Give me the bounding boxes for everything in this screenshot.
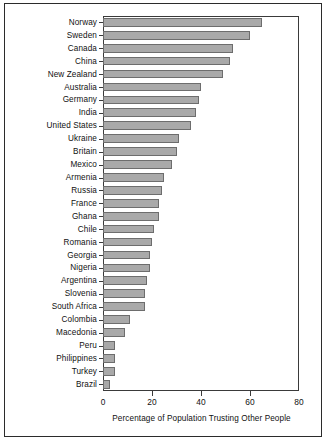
bar-fill <box>103 18 262 27</box>
category-label: India <box>5 108 97 117</box>
bar-row: Slovenia <box>5 287 327 300</box>
bar-row: Russia <box>5 184 327 197</box>
bar <box>103 121 191 130</box>
category-label: Chile <box>5 225 97 234</box>
x-axis-tick-label: 40 <box>196 397 205 407</box>
bar-fill <box>103 199 159 208</box>
bar-fill <box>103 173 164 182</box>
bar-row: Nigeria <box>5 262 327 275</box>
bar <box>103 225 154 234</box>
category-label: China <box>5 57 97 66</box>
x-axis-tick-label: 0 <box>101 397 106 407</box>
bar <box>103 108 196 117</box>
x-axis-tick-labels: 020406080 <box>5 397 327 409</box>
category-label: Norway <box>5 18 97 27</box>
category-label: South Africa <box>5 302 97 311</box>
bar <box>103 199 159 208</box>
bar <box>103 276 147 285</box>
bar <box>103 134 179 143</box>
bar-row: Chile <box>5 223 327 236</box>
category-label: Ukraine <box>5 134 97 143</box>
bar-row: France <box>5 197 327 210</box>
category-label: Peru <box>5 341 97 350</box>
bar-fill <box>103 367 115 376</box>
category-label: Philippines <box>5 354 97 363</box>
bar-fill <box>103 315 130 324</box>
bar <box>103 96 199 105</box>
bar-fill <box>103 44 233 53</box>
bar <box>103 186 162 195</box>
bar <box>103 302 145 311</box>
bar-row: Brazil <box>5 378 327 391</box>
bar <box>103 289 145 298</box>
bar-row: New Zealand <box>5 68 327 81</box>
bar <box>103 264 150 273</box>
bar <box>103 238 152 247</box>
bar <box>103 147 177 156</box>
bar-row: Turkey <box>5 365 327 378</box>
bar-fill <box>103 108 196 117</box>
bar-fill <box>103 251 150 260</box>
category-label: Britain <box>5 147 97 156</box>
x-axis-title-text: Percentage of Population Trusting Other … <box>112 414 290 423</box>
bar-fill <box>103 121 191 130</box>
bar-fill <box>103 354 115 363</box>
bar-fill <box>103 225 154 234</box>
category-label: Georgia <box>5 251 97 260</box>
bar <box>103 173 164 182</box>
bar-row: United States <box>5 119 327 132</box>
category-label: Turkey <box>5 367 97 376</box>
bar-fill <box>103 341 115 350</box>
category-label: Australia <box>5 83 97 92</box>
bar <box>103 328 125 337</box>
bar-fill <box>103 302 145 311</box>
bar-row: Ghana <box>5 210 327 223</box>
category-label: Ghana <box>5 212 97 221</box>
bar-fill <box>103 160 172 169</box>
category-label: Nigeria <box>5 263 97 272</box>
category-label: Russia <box>5 186 97 195</box>
bar-fill <box>103 70 223 79</box>
bar-fill <box>103 289 145 298</box>
bar-row: Armenia <box>5 171 327 184</box>
bar-fill <box>103 147 177 156</box>
bar <box>103 31 250 40</box>
category-label: Sweden <box>5 31 97 40</box>
category-label: France <box>5 199 97 208</box>
bar-rows-container: NorwaySwedenCanadaChinaNew ZealandAustra… <box>5 16 327 391</box>
bar-fill <box>103 264 150 273</box>
bar-row: Peru <box>5 339 327 352</box>
bar-fill <box>103 276 147 285</box>
bar-row: China <box>5 55 327 68</box>
bar <box>103 83 201 92</box>
x-axis-tickmark <box>201 391 202 396</box>
bar-row: Sweden <box>5 29 327 42</box>
bar-fill <box>103 83 201 92</box>
bar <box>103 18 262 27</box>
bar <box>103 44 233 53</box>
bar-fill <box>103 212 159 221</box>
bar-row: Romania <box>5 236 327 249</box>
bar-fill <box>103 134 179 143</box>
bar-fill <box>103 238 152 247</box>
bar <box>103 367 115 376</box>
bar-row: Canada <box>5 42 327 55</box>
x-axis-tick-label: 80 <box>294 397 303 407</box>
bar-row: South Africa <box>5 300 327 313</box>
x-axis-tick-label: 60 <box>245 397 254 407</box>
category-label: Macedonia <box>5 328 97 337</box>
bar <box>103 315 130 324</box>
bar-fill <box>103 186 162 195</box>
category-label: New Zealand <box>5 70 97 79</box>
bar-row: Mexico <box>5 158 327 171</box>
bar <box>103 380 110 389</box>
bar <box>103 57 230 66</box>
chart-frame: NorwaySwedenCanadaChinaNew ZealandAustra… <box>4 3 322 437</box>
bar-row: Australia <box>5 81 327 94</box>
bar <box>103 354 115 363</box>
bar <box>103 341 115 350</box>
bar <box>103 70 223 79</box>
bar <box>103 212 159 221</box>
x-axis-tick-label: 20 <box>147 397 156 407</box>
bar-fill <box>103 57 230 66</box>
